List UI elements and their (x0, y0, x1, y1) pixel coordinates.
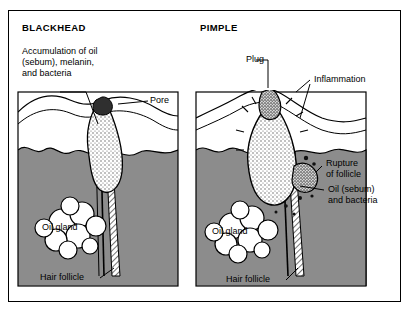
label-oil-gland-left: Oil gland (42, 222, 78, 233)
label-oil-sebum-line2: and bacteria (328, 195, 378, 206)
label-accumulation-line3: and bacteria (22, 68, 142, 79)
figure-root: BLACKHEAD PIMPLE (0, 0, 411, 312)
label-inflammation: Inflammation (314, 74, 366, 85)
label-rupture-line2: of follicle (326, 169, 361, 180)
label-hair-follicle-right: Hair follicle (226, 274, 270, 285)
blackhead-plug-cap (93, 97, 112, 115)
label-oil-gland-right: Oil gland (212, 226, 248, 237)
label-plug: Plug (246, 54, 264, 65)
label-accumulation-line2: (sebum), melanin, (22, 57, 142, 68)
label-accumulation-line1: Accumulation of oil (22, 46, 142, 57)
label-hair-follicle-left: Hair follicle (40, 272, 84, 283)
blackhead-diagram (18, 92, 178, 286)
label-pore: Pore (150, 95, 169, 106)
label-oil-sebum-line1: Oil (sebum) (328, 184, 375, 195)
label-rupture-line1: Rupture (326, 158, 358, 169)
